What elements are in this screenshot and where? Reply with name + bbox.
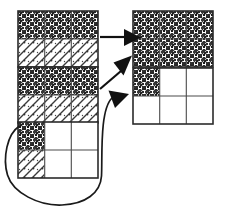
grid-cell[interactable] <box>186 11 213 39</box>
diagram-svg <box>0 0 225 216</box>
source-grid-1[interactable] <box>18 11 98 67</box>
grid-cell[interactable] <box>18 67 45 95</box>
grid-cell[interactable] <box>133 96 160 124</box>
arrow-head <box>114 56 133 76</box>
grid-cell[interactable] <box>45 150 72 178</box>
source-grid-2[interactable] <box>18 67 98 123</box>
grid-cell[interactable] <box>186 96 213 124</box>
target-grid-2[interactable] <box>133 68 213 124</box>
grid-cell[interactable] <box>45 67 72 95</box>
arrow-diagonal <box>100 56 132 90</box>
grid-cell[interactable] <box>18 39 45 67</box>
grid-cell[interactable] <box>186 39 213 67</box>
grid-cell[interactable] <box>45 39 72 67</box>
arrow-shaft <box>100 71 121 89</box>
grid-cell[interactable] <box>45 95 72 123</box>
source-grid-3[interactable] <box>18 122 98 178</box>
target-grid-1[interactable] <box>133 11 213 67</box>
grid-cell[interactable] <box>133 68 160 96</box>
grid-cell[interactable] <box>71 39 98 67</box>
grid-cell[interactable] <box>71 11 98 39</box>
grid-cell[interactable] <box>71 150 98 178</box>
grid-cell[interactable] <box>45 11 72 39</box>
grid-cell[interactable] <box>71 95 98 123</box>
grid-cell[interactable] <box>160 39 187 67</box>
grid-cell[interactable] <box>160 68 187 96</box>
grid-cell[interactable] <box>133 39 160 67</box>
grid-cell[interactable] <box>71 122 98 150</box>
grid-cell[interactable] <box>18 11 45 39</box>
grid-cell[interactable] <box>186 68 213 96</box>
grid-cell[interactable] <box>133 11 160 39</box>
grid-cell[interactable] <box>18 122 45 150</box>
diagram-canvas <box>0 0 225 216</box>
grid-cell[interactable] <box>45 122 72 150</box>
grid-cell[interactable] <box>18 150 45 178</box>
grid-cell[interactable] <box>18 95 45 123</box>
grid-cell[interactable] <box>160 11 187 39</box>
grid-cell[interactable] <box>71 67 98 95</box>
grid-cell[interactable] <box>160 96 187 124</box>
